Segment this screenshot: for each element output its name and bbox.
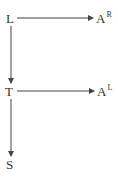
node-a-r: AR: [96, 12, 112, 25]
node-t: T: [5, 85, 13, 98]
node-a-l-superscript: L: [107, 83, 112, 92]
node-l: L: [6, 12, 14, 25]
node-s: S: [6, 158, 13, 171]
node-l-label: L: [6, 11, 14, 26]
node-a-l: AL: [97, 85, 112, 98]
node-a-r-superscript: R: [106, 10, 111, 19]
node-a-l-label: A: [97, 84, 106, 99]
node-t-label: T: [5, 84, 13, 99]
node-s-label: S: [6, 157, 13, 172]
node-a-r-label: A: [96, 11, 105, 26]
